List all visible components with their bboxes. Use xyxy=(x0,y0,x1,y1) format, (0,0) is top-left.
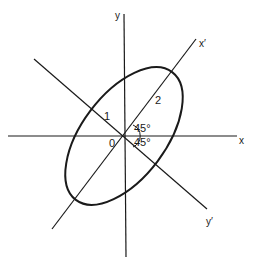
lower-angle-label: 45° xyxy=(134,136,151,148)
origin-label: 0 xyxy=(109,137,115,149)
major-axis-label: 2 xyxy=(155,94,161,106)
upper-angle-label: 45° xyxy=(134,122,151,134)
ellipse-diagram: y x x′ y′ 0 1 2 45° 45° xyxy=(0,0,256,272)
minor-axis-label: 1 xyxy=(104,110,110,122)
y-axis-label: y xyxy=(115,10,120,21)
x-prime-axis-label: x′ xyxy=(199,38,206,49)
x-axis-label: x xyxy=(239,135,244,146)
y-prime-axis-label: y′ xyxy=(206,216,213,227)
